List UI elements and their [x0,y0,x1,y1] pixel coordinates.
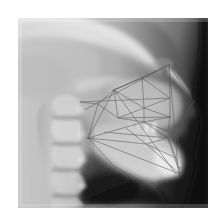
image-canvas [0,0,224,222]
radiograph-svg [18,18,208,208]
margin-right [208,0,224,222]
lateral-cephalometric-radiograph [18,18,208,208]
margin-bottom [0,208,224,222]
film-grain [18,18,208,208]
margin-left [0,0,18,222]
margin-top [0,0,224,18]
